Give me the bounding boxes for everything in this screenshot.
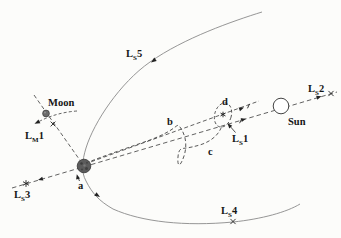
label-lm1: LM1 — [25, 130, 44, 144]
sun-body — [273, 98, 289, 114]
line-tick-before-sun — [240, 117, 247, 123]
earth-body — [77, 159, 91, 173]
diagram-canvas: LS5 Moon LM1 LS3 a b c d LS1 Sun LS2 LS4 — [0, 0, 341, 238]
moon-direction-arrow — [34, 119, 41, 125]
label-ls3: LS3 — [14, 189, 30, 203]
label-sun: Sun — [288, 116, 306, 127]
label-b: b — [167, 116, 173, 127]
line-tick-near-ls3 — [37, 177, 43, 182]
lagrange-points-diagram: LS5 Moon LM1 LS3 a b c d LS1 Sun LS2 LS4 — [0, 0, 341, 238]
label-a: a — [78, 180, 84, 191]
moon-body — [43, 110, 50, 117]
transfer-trajectory — [86, 125, 222, 164]
label-ls1: LS1 — [232, 133, 248, 147]
label-ls5: LS5 — [126, 48, 142, 62]
label-c: c — [208, 146, 213, 157]
label-d: d — [222, 96, 228, 107]
ls1-star-marker — [221, 112, 226, 118]
earth-orbit-curve — [83, 12, 300, 224]
label-moon: Moon — [48, 97, 74, 108]
label-ls4: LS4 — [221, 205, 238, 219]
label-ls2: LS2 — [308, 83, 324, 97]
